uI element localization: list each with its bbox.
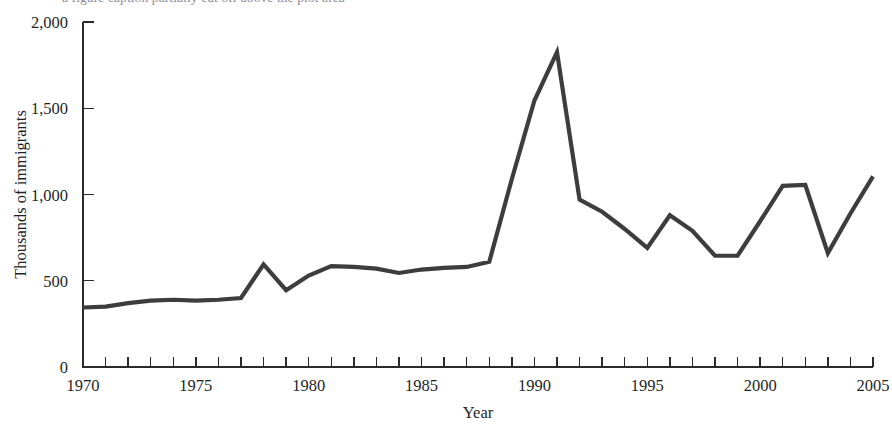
x-tick-label: 2005 xyxy=(857,376,890,395)
x-tick-label: 1980 xyxy=(292,376,325,395)
y-tick-label: 2,000 xyxy=(31,13,68,32)
figure-container: a figure caption partially cut off above… xyxy=(0,0,892,430)
y-tick-label: 500 xyxy=(43,272,68,291)
line-chart: 05001,0001,5002,000197019751980198519901… xyxy=(0,0,892,430)
y-tick-label: 1,500 xyxy=(31,99,68,118)
axis-spine xyxy=(83,22,873,367)
x-tick-label: 1975 xyxy=(179,376,212,395)
y-axis-title: Thousands of immigrants xyxy=(11,110,30,279)
x-tick-label: 1995 xyxy=(631,376,664,395)
y-tick-label: 1,000 xyxy=(31,186,68,205)
y-tick-label: 0 xyxy=(60,358,68,377)
x-tick-label: 1970 xyxy=(67,376,100,395)
x-tick-label: 1990 xyxy=(518,376,551,395)
data-series-line xyxy=(83,52,873,307)
x-axis-title: Year xyxy=(463,403,494,422)
x-tick-label: 2000 xyxy=(744,376,777,395)
x-tick-label: 1985 xyxy=(405,376,438,395)
